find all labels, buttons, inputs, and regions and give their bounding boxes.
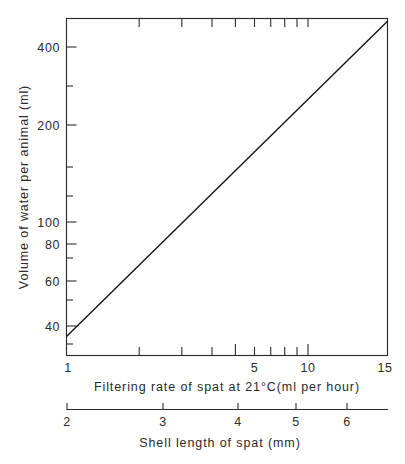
x-tick-label-15: 15 [377, 361, 392, 375]
y-tick-label-200: 200 [37, 119, 60, 133]
secondary-axis-ticks [67, 403, 347, 410]
x-tick-label-5: 5 [251, 361, 259, 375]
y-tick-label-60: 60 [45, 275, 60, 289]
y-tick-label-100: 100 [37, 216, 60, 230]
y-tick-label-400: 400 [37, 41, 60, 55]
x-tick-label-10: 10 [300, 361, 315, 375]
y-tick-label-40: 40 [45, 320, 60, 334]
y-axis-major-ticks [67, 47, 77, 326]
top-axis-ticks [139, 19, 308, 28]
secondary-x-tick-label-4: 4 [234, 415, 242, 429]
data-series-line [67, 21, 388, 336]
secondary-x-axis-title: Shell length of spat (mm) [139, 436, 300, 450]
secondary-x-tick-label-3: 3 [159, 415, 167, 429]
secondary-x-tick-label-5: 5 [292, 415, 300, 429]
x-tick-label-1: 1 [64, 361, 72, 375]
x-axis-title: Filtering rate of spat at 21°C(ml per ho… [94, 380, 360, 394]
secondary-x-tick-label-2: 2 [63, 415, 71, 429]
y-tick-label-80: 80 [45, 238, 60, 252]
chart-figure: 400 200 100 80 60 40 Volume of water per… [0, 0, 405, 464]
secondary-x-tick-label-6: 6 [343, 415, 351, 429]
x-axis-ticks [139, 344, 308, 356]
y-axis-title: Volume of water per animal (ml) [17, 85, 31, 289]
